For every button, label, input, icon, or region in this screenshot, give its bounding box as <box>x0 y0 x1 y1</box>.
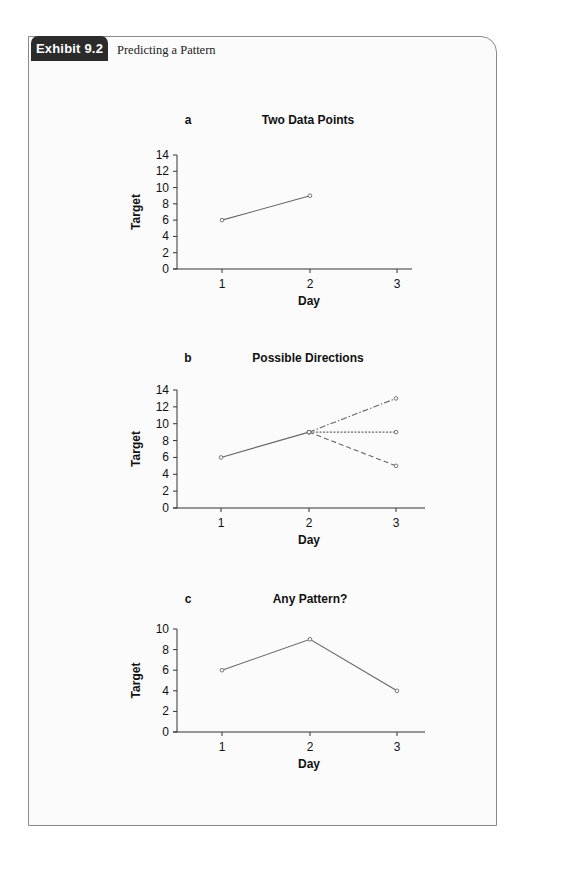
data-point <box>395 689 399 693</box>
y-tick-label: 8 <box>162 197 169 211</box>
data-point <box>308 194 312 198</box>
y-tick-label: 10 <box>156 622 170 636</box>
series-observed <box>221 432 309 457</box>
chart-title: Two Data Points <box>262 113 355 127</box>
series-observed <box>222 639 397 691</box>
y-tick-label: 10 <box>156 181 170 195</box>
y-tick-label: 14 <box>156 383 170 397</box>
data-point <box>394 464 398 468</box>
panel-letter: b <box>184 351 191 365</box>
y-tick-label: 6 <box>162 450 169 464</box>
y-tick-label: 4 <box>162 229 169 243</box>
series-observed <box>222 196 310 220</box>
data-point <box>219 456 223 460</box>
y-tick-label: 12 <box>156 400 170 414</box>
chart-title: Possible Directions <box>252 351 364 365</box>
x-tick-label: 2 <box>306 516 313 530</box>
y-tick-label: 8 <box>162 434 169 448</box>
y-tick-label: 4 <box>162 684 169 698</box>
y-axis-label: Target <box>129 194 143 230</box>
x-axis-label: Day <box>298 757 320 771</box>
y-tick-label: 2 <box>162 704 169 718</box>
y-tick-label: 12 <box>156 164 170 178</box>
y-tick-label: 0 <box>162 501 169 515</box>
x-tick-label: 3 <box>393 516 400 530</box>
x-tick-label: 3 <box>394 740 401 754</box>
panel-letter: a <box>185 113 192 127</box>
x-tick-label: 2 <box>307 277 314 291</box>
x-axis-label: Day <box>298 533 320 547</box>
chart-panel-b: bPossible Directions02468101214123DayTar… <box>129 351 425 547</box>
x-tick-label: 2 <box>307 740 314 754</box>
series-decrease <box>309 432 396 466</box>
data-point <box>394 397 398 401</box>
data-point <box>220 218 224 222</box>
y-tick-label: 10 <box>156 417 170 431</box>
y-tick-label: 2 <box>162 246 169 260</box>
data-point <box>307 430 311 434</box>
series-increase <box>309 398 396 432</box>
x-axis-label: Day <box>298 294 320 308</box>
y-axis-label: Target <box>129 663 143 699</box>
x-tick-label: 1 <box>219 277 226 291</box>
chart-title: Any Pattern? <box>273 592 348 606</box>
y-tick-label: 14 <box>156 148 170 162</box>
y-tick-label: 4 <box>162 467 169 481</box>
panel-letter: c <box>185 592 192 606</box>
y-tick-label: 0 <box>162 262 169 276</box>
y-tick-label: 6 <box>162 213 169 227</box>
data-point <box>220 668 224 672</box>
chart-panel-a: aTwo Data Points02468101214123DayTarget <box>129 113 412 308</box>
y-tick-label: 0 <box>162 725 169 739</box>
charts-canvas: aTwo Data Points02468101214123DayTargetb… <box>0 0 570 872</box>
x-tick-label: 1 <box>219 740 226 754</box>
data-point <box>308 638 312 642</box>
x-tick-label: 3 <box>394 277 401 291</box>
y-axis-label: Target <box>129 431 143 467</box>
data-point <box>394 430 398 434</box>
y-tick-label: 2 <box>162 484 169 498</box>
chart-panel-c: cAny Pattern?0246810123DayTarget <box>129 592 425 771</box>
y-tick-label: 8 <box>162 643 169 657</box>
y-tick-label: 6 <box>162 663 169 677</box>
x-tick-label: 1 <box>218 516 225 530</box>
